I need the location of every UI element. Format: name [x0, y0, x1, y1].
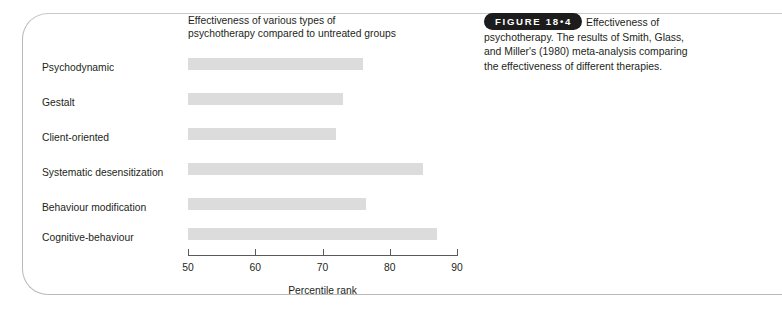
x-axis-tick	[457, 249, 458, 256]
bar	[188, 128, 336, 140]
bar	[188, 198, 366, 210]
x-axis-tick-label: 60	[250, 262, 261, 274]
x-axis-tick	[390, 249, 391, 256]
bar	[188, 228, 437, 240]
figure-number-badge: FIGURE 18•4	[484, 13, 582, 30]
category-label: Client-oriented	[42, 132, 109, 144]
bar	[188, 58, 363, 70]
bar	[188, 163, 423, 175]
category-label: Psychodynamic	[42, 62, 114, 74]
x-axis-tick-label: 80	[384, 262, 395, 274]
x-axis-title: Percentile rank	[188, 285, 457, 296]
bar-chart: Effectiveness of various types of psycho…	[0, 0, 470, 319]
x-axis-tick	[188, 249, 189, 256]
category-label: Gestalt	[42, 97, 75, 109]
bar	[188, 93, 343, 105]
figure-caption: FIGURE 18•4Effectiveness of psychotherap…	[484, 13, 689, 74]
category-label: Behaviour modification	[42, 202, 146, 214]
chart-title: Effectiveness of various types of psycho…	[188, 15, 398, 40]
x-axis-tick-label: 70	[317, 262, 328, 274]
x-axis-tick	[255, 249, 256, 256]
x-axis-tick-label: 50	[182, 262, 193, 274]
category-label: Cognitive-behaviour	[42, 232, 134, 244]
x-axis-tick	[323, 249, 324, 256]
category-label: Systematic desensitization	[42, 167, 163, 179]
x-axis-tick-label: 90	[451, 262, 462, 274]
